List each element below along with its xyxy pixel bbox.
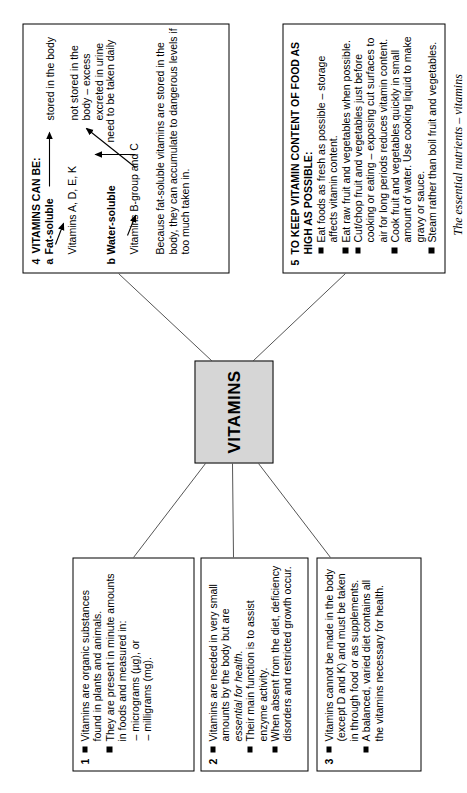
box-1-bullets: Vitamins are organic substances found in… [78, 564, 128, 753]
list-item: Eat foods as fresh as possible – storage… [314, 31, 339, 254]
box-5-title: TO KEEP VITAMIN CONTENT OF FOOD AS HIGH … [288, 31, 313, 254]
box-4[interactable]: 4 VITAMINS CAN BE: a Fat-soluble Vitamin… [22, 23, 229, 273]
box-4-title: VITAMINS CAN BE: [29, 32, 42, 253]
box-2[interactable]: 2 Vitamins are needed in very small amou… [200, 557, 308, 771]
list-item: Steam rather than boil fruit and vegetab… [425, 31, 437, 254]
central-node[interactable]: VITAMINS [194, 360, 273, 463]
box-5-bullets: Eat foods as fresh as possible – storage… [314, 31, 437, 254]
list-item: Vitamins cannot be made in the body (exc… [322, 564, 359, 753]
box-1-sub-item: – micrograms (µg), or [128, 564, 140, 741]
box-4-arrow-label-a: stored in the body [43, 28, 55, 120]
list-item: Their main function is to assist enzyme … [243, 564, 268, 753]
box-4-item-b-letter: b [104, 254, 117, 264]
box-1[interactable]: 1 Vitamins are organic substances found … [72, 557, 194, 771]
central-node-label: VITAMINS [224, 370, 244, 453]
list-item: A balanced, varied diet contains all the… [359, 564, 384, 753]
box-2-bullets: Vitamins are needed in very small amount… [206, 564, 293, 753]
box-3-bullets: Vitamins cannot be made in the body (exc… [322, 564, 384, 753]
box-3-number: 3 [322, 753, 335, 764]
list-item: They are present in minute amounts in fo… [103, 564, 128, 753]
box-4-item-b-detail: Vitamins B-group and C [127, 32, 140, 254]
box-4-item-a-label: Fat-soluble [42, 198, 55, 254]
box-4-note: Because fat-soluble vitamins are stored … [153, 26, 191, 254]
box-4-item-b-label: Water-soluble [104, 185, 117, 254]
box-5[interactable]: 5 TO KEEP VITAMIN CONTENT OF FOOD AS HIG… [282, 23, 445, 273]
box-4-item-a-letter: a [42, 254, 55, 264]
box-2-italic-fragment: essential for health. [231, 650, 243, 741]
page-caption: The essential nutrients – vitamins [450, 74, 465, 235]
box-4-arrow-label-b1: not stored in the body – excess excreted… [67, 24, 104, 120]
box-2-number: 2 [206, 753, 219, 764]
list-item: Vitamins are needed in very small amount… [206, 564, 243, 753]
list-item: Cook fruit and vegetables quickly in sma… [388, 31, 425, 254]
box-4-arrow-label-b2: need to be taken daily [103, 32, 115, 142]
list-item: When absent from the diet, deficiency di… [268, 564, 293, 753]
box-5-number: 5 [288, 254, 301, 265]
box-1-number: 1 [78, 753, 91, 764]
list-item: Vitamins are organic substances found in… [78, 564, 103, 753]
box-4-number: 4 [29, 253, 42, 264]
list-item: Cut/chop fruit and vegetables just befor… [351, 31, 388, 254]
list-item: Eat raw fruit and vegetables when possib… [339, 31, 351, 254]
box-3[interactable]: 3 Vitamins cannot be made in the body (e… [316, 557, 421, 771]
diagram-stage: VITAMINS 1 Vitamins are organic substanc… [0, 0, 467, 793]
box-1-sub-item: – milligrams (mg). [140, 564, 152, 741]
